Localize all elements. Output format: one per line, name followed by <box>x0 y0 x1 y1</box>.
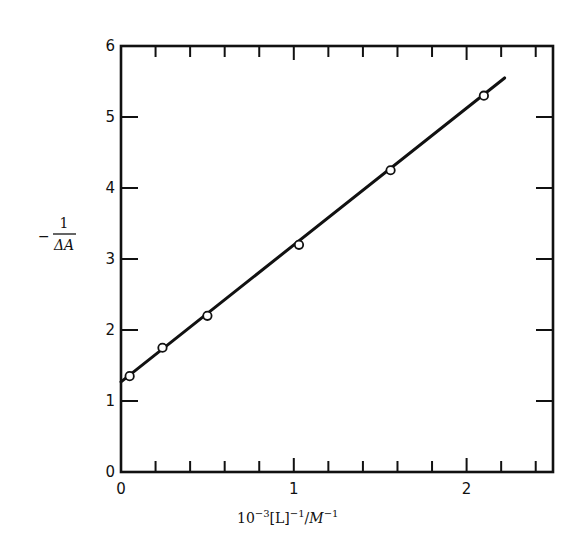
y-label-numerator: 1 <box>60 215 69 231</box>
x-label-unit: M <box>308 510 324 526</box>
x-label-exp2: −1 <box>290 508 305 519</box>
y-tick-label: 4 <box>105 179 115 197</box>
data-point-open-circle <box>125 372 133 380</box>
data-point-open-circle <box>158 344 166 352</box>
y-tick-label: 0 <box>105 463 115 481</box>
data-point-open-circle <box>480 92 488 100</box>
fit-line <box>121 78 505 382</box>
x-tick-labels: 012 <box>116 480 471 498</box>
y-tick-label: 2 <box>105 321 115 339</box>
data-point-open-circle <box>295 241 303 249</box>
y-tick-label: 3 <box>105 250 115 268</box>
double-reciprocal-plot: 012 0123456 − 1 ΔA 10−3[L]−1/M−1 <box>0 0 583 555</box>
x-label-mid: [L] <box>270 510 290 526</box>
y-label-denominator: ΔA <box>53 237 74 253</box>
x-label-text: 10−3[L]−1/M−1 <box>237 508 338 526</box>
x-tick-label: 1 <box>289 480 299 498</box>
y-tick-label: 5 <box>105 108 115 126</box>
plot-frame <box>121 46 553 472</box>
x-axis-label: 10−3[L]−1/M−1 <box>237 508 338 526</box>
data-point-open-circle <box>386 166 394 174</box>
y-axis-label: − 1 ΔA <box>38 215 76 253</box>
x-tick-label: 0 <box>116 480 126 498</box>
x-label-exp3: −1 <box>324 508 339 519</box>
data-point-open-circle <box>203 312 211 320</box>
plot-border <box>121 46 553 472</box>
y-tick-label: 6 <box>105 37 115 55</box>
x-label-base: 10 <box>237 510 255 526</box>
y-tick-label: 1 <box>105 392 115 410</box>
linear-fit-line <box>121 78 505 382</box>
axis-ticks <box>121 46 553 472</box>
y-tick-labels: 0123456 <box>105 37 115 481</box>
x-tick-label: 2 <box>462 480 472 498</box>
y-label-minus: − <box>38 228 50 244</box>
x-label-exp1: −3 <box>255 508 270 519</box>
